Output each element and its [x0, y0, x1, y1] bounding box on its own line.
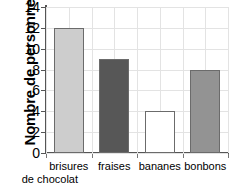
y-axis-tick-mark	[41, 111, 46, 112]
gridline-vertical	[137, 7, 138, 153]
y-axis-tick-label: 6	[16, 83, 40, 97]
plot-area	[46, 7, 228, 153]
y-axis-tick-label: 14	[16, 0, 40, 14]
y-axis-tick-label: 12	[16, 21, 40, 35]
x-axis-tick-mark	[183, 154, 184, 158]
gridline-vertical	[46, 7, 47, 153]
bar	[99, 59, 129, 153]
gridline-vertical	[92, 7, 93, 153]
x-axis-tick-mark	[46, 154, 47, 158]
bar-chart: Nombre de personnes 02468101214 brisures…	[0, 0, 231, 185]
gridline-vertical	[183, 7, 184, 153]
y-axis-tick-label: 4	[16, 104, 40, 118]
x-axis-tick-mark	[137, 154, 138, 158]
bar	[54, 28, 84, 153]
y-axis-tick-mark	[41, 132, 46, 133]
gridline-vertical	[228, 7, 229, 153]
y-axis-tick-mark	[41, 90, 46, 91]
bar	[190, 70, 220, 153]
y-axis-tick-labels: 02468101214	[14, 0, 40, 185]
x-axis-category-label: bonbons	[170, 160, 231, 173]
y-axis-tick-mark	[41, 70, 46, 71]
y-axis-tick-label: 10	[16, 42, 40, 56]
bar	[145, 111, 175, 153]
x-axis-tick-mark	[228, 154, 229, 158]
y-axis-tick-label: 0	[16, 146, 40, 160]
y-axis-tick-label: 8	[16, 63, 40, 77]
y-axis-tick-mark	[41, 49, 46, 50]
x-axis-tick-mark	[92, 154, 93, 158]
y-axis-tick-mark	[41, 28, 46, 29]
y-axis-tick-label: 2	[16, 125, 40, 139]
y-axis-tick-mark	[41, 7, 46, 8]
